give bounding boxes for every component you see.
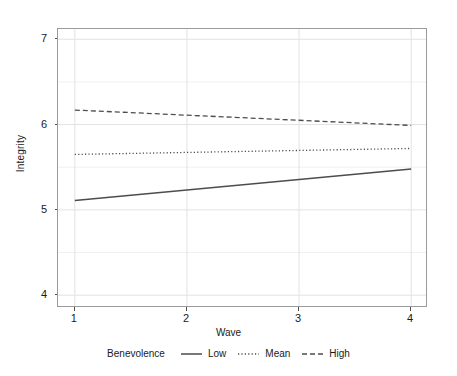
legend-key-dotted-icon [237,349,260,359]
legend-label: Low [208,348,226,359]
legend-key-dashed-icon [301,349,324,359]
x-tick-mark [186,307,187,311]
legend-key-solid-icon [180,349,203,359]
x-tick-mark [74,307,75,311]
chart-legend: Benevolence LowMeanHigh [0,348,457,359]
legend-entry-low[interactable]: Low [180,348,226,359]
legend-label: Mean [265,348,290,359]
x-axis-ticks: 1234 [0,0,457,376]
chart-figure: Integrity 7654 1234 Wave Benevolence Low… [0,0,457,376]
x-tick-label: 4 [407,312,413,324]
legend-entry-high[interactable]: High [301,348,350,359]
x-tick-label: 2 [183,312,189,324]
x-tick-mark [298,307,299,311]
legend-label: High [329,348,350,359]
x-axis-title-text: Wave [216,327,241,338]
x-axis-title: Wave [0,327,457,338]
x-tick-label: 1 [71,312,77,324]
legend-entry-mean[interactable]: Mean [237,348,290,359]
legend-title: Benevolence [107,348,165,359]
x-tick-mark [410,307,411,311]
x-tick-label: 3 [295,312,301,324]
